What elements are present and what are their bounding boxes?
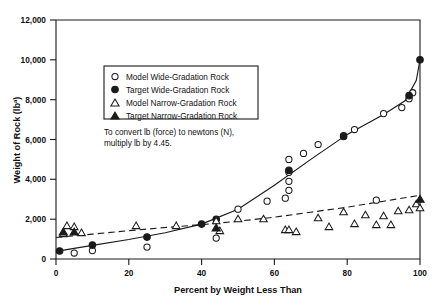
legend-marker-filled-circle xyxy=(112,86,119,93)
y-axis-title: Weight of Rock (lba) xyxy=(12,97,22,184)
conversion-note: To convert lb (force) to newtons (N), mu… xyxy=(104,128,234,148)
x-tick-0: 0 xyxy=(54,268,59,278)
y-axis-title-group: Weight of Rock (lba) xyxy=(12,97,22,184)
y-tick-6000: 6,000 xyxy=(25,135,46,145)
legend-label-target-narrow: Target Narrow-Gradation Rock xyxy=(126,112,238,121)
x-axis-labels: 0 20 40 60 80 100 xyxy=(54,268,428,278)
y-tick-4000: 4,000 xyxy=(25,174,46,184)
y-tick-10000: 10,000 xyxy=(21,55,47,65)
note-line-2: multiply lb by 4.45. xyxy=(104,139,172,148)
legend-marker-open-circle xyxy=(112,73,118,79)
y-tick-12000: 12,000 xyxy=(21,15,47,25)
x-tick-80: 80 xyxy=(343,268,353,278)
y-axis-title-close: ) xyxy=(12,97,22,100)
y-tick-0: 0 xyxy=(41,254,46,264)
legend-label-model-wide: Model Wide-Gradation Rock xyxy=(126,73,230,82)
y-axis-ticks xyxy=(50,20,56,259)
x-tick-60: 60 xyxy=(270,268,280,278)
y-axis-labels: 0 2,000 4,000 6,000 8,000 10,000 12,000 xyxy=(21,15,47,264)
x-axis-title: Percent by Weight Less Than xyxy=(174,285,302,295)
x-tick-20: 20 xyxy=(124,268,134,278)
y-tick-2000: 2,000 xyxy=(25,214,46,224)
y-tick-8000: 8,000 xyxy=(25,95,46,105)
y-axis-title-main: Weight of Rock (lb xyxy=(12,103,22,184)
x-tick-100: 100 xyxy=(413,268,427,278)
chart-figure: 0 2,000 4,000 6,000 8,000 10,000 12,000 … xyxy=(0,0,440,308)
note-line-1: To convert lb (force) to newtons (N), xyxy=(104,128,234,137)
x-tick-40: 40 xyxy=(197,268,207,278)
series-model-narrow-gradation-markers xyxy=(60,200,424,236)
series-target-narrow-gradation-markers xyxy=(59,195,424,235)
x-axis-ticks xyxy=(56,259,420,265)
chart-svg: 0 2,000 4,000 6,000 8,000 10,000 12,000 … xyxy=(0,0,440,308)
chart-legend: Model Wide-Gradation Rock Target Wide-Gr… xyxy=(104,66,258,121)
legend-label-model-narrow: Model Narrow-Gradation Rock xyxy=(126,99,237,108)
legend-label-target-wide: Target Wide-Gradation Rock xyxy=(126,86,230,95)
